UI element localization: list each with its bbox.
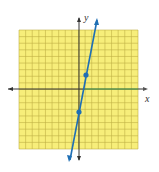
x-axis-right-arrow-icon [143, 87, 148, 91]
y-axis-down-arrow-icon [77, 156, 81, 161]
line-down-arrow-icon [67, 155, 72, 162]
y-axis-up-arrow-icon [77, 17, 81, 22]
y-axis-label: y [84, 12, 88, 23]
data-point [76, 109, 81, 114]
line-up-arrow-icon [94, 18, 99, 25]
coordinate-plane [0, 0, 159, 172]
x-axis-left-arrow-icon [8, 87, 13, 91]
data-point [83, 72, 88, 77]
x-axis-label: x [145, 93, 149, 104]
